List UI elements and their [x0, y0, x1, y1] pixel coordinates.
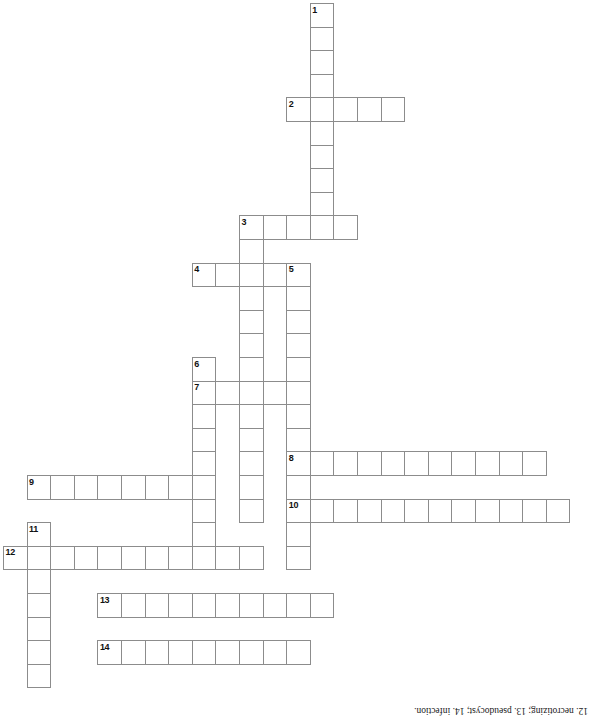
crossword-cell[interactable] — [286, 263, 311, 288]
crossword-cell[interactable] — [310, 145, 335, 170]
crossword-cell[interactable] — [475, 451, 500, 476]
crossword-cell[interactable] — [145, 475, 170, 500]
crossword-cell[interactable] — [192, 522, 217, 547]
crossword-cell[interactable] — [215, 546, 240, 571]
crossword-cell[interactable] — [522, 451, 547, 476]
crossword-cell[interactable] — [239, 451, 264, 476]
crossword-cell[interactable] — [192, 263, 217, 288]
crossword-cell[interactable] — [404, 499, 429, 524]
crossword-cell[interactable] — [121, 475, 146, 500]
crossword-cell[interactable] — [50, 475, 75, 500]
crossword-cell[interactable] — [263, 640, 288, 665]
crossword-cell[interactable] — [286, 451, 311, 476]
crossword-cell[interactable] — [286, 593, 311, 618]
crossword-cell[interactable] — [239, 546, 264, 571]
crossword-cell[interactable] — [310, 215, 335, 240]
crossword-cell[interactable] — [522, 499, 547, 524]
crossword-cell[interactable] — [27, 475, 52, 500]
crossword-cell[interactable] — [475, 499, 500, 524]
crossword-cell[interactable] — [97, 640, 122, 665]
crossword-cell[interactable] — [145, 593, 170, 618]
crossword-cell[interactable] — [239, 593, 264, 618]
crossword-cell[interactable] — [286, 640, 311, 665]
crossword-cell[interactable] — [239, 404, 264, 429]
crossword-cell[interactable] — [310, 121, 335, 146]
crossword-cell[interactable] — [428, 451, 453, 476]
crossword-cell[interactable] — [192, 546, 217, 571]
crossword-cell[interactable] — [27, 617, 52, 642]
crossword-cell[interactable] — [192, 381, 217, 406]
crossword-cell[interactable] — [404, 451, 429, 476]
crossword-cell[interactable] — [333, 215, 358, 240]
crossword-cell[interactable] — [381, 97, 406, 122]
crossword-cell[interactable] — [168, 593, 193, 618]
crossword-cell[interactable] — [546, 499, 571, 524]
crossword-cell[interactable] — [310, 451, 335, 476]
crossword-cell[interactable] — [286, 381, 311, 406]
crossword-cell[interactable] — [215, 263, 240, 288]
crossword-cell[interactable] — [121, 640, 146, 665]
crossword-cell[interactable] — [381, 451, 406, 476]
crossword-cell[interactable] — [286, 499, 311, 524]
crossword-cell[interactable] — [239, 428, 264, 453]
crossword-cell[interactable] — [239, 357, 264, 382]
crossword-cell[interactable] — [192, 593, 217, 618]
crossword-cell[interactable] — [310, 168, 335, 193]
crossword-cell[interactable] — [97, 546, 122, 571]
crossword-cell[interactable] — [97, 475, 122, 500]
crossword-cell[interactable] — [499, 499, 524, 524]
crossword-cell[interactable] — [192, 428, 217, 453]
crossword-cell[interactable] — [121, 593, 146, 618]
crossword-cell[interactable] — [74, 546, 99, 571]
crossword-cell[interactable] — [310, 74, 335, 99]
crossword-cell[interactable] — [286, 522, 311, 547]
crossword-cell[interactable] — [239, 215, 264, 240]
crossword-cell[interactable] — [286, 428, 311, 453]
crossword-cell[interactable] — [121, 546, 146, 571]
crossword-cell[interactable] — [239, 640, 264, 665]
crossword-cell[interactable] — [381, 499, 406, 524]
crossword-cell[interactable] — [239, 286, 264, 311]
crossword-cell[interactable] — [263, 593, 288, 618]
crossword-cell[interactable] — [192, 499, 217, 524]
crossword-cell[interactable] — [263, 381, 288, 406]
crossword-cell[interactable] — [286, 97, 311, 122]
crossword-cell[interactable] — [239, 263, 264, 288]
crossword-cell[interactable] — [27, 664, 52, 689]
crossword-cell[interactable] — [239, 310, 264, 335]
crossword-cell[interactable] — [27, 522, 52, 547]
crossword-cell[interactable] — [428, 499, 453, 524]
crossword-cell[interactable] — [145, 546, 170, 571]
crossword-cell[interactable] — [192, 451, 217, 476]
crossword-cell[interactable] — [451, 499, 476, 524]
crossword-cell[interactable] — [333, 451, 358, 476]
crossword-cell[interactable] — [263, 215, 288, 240]
crossword-cell[interactable] — [239, 239, 264, 264]
crossword-cell[interactable] — [168, 475, 193, 500]
crossword-cell[interactable] — [357, 499, 382, 524]
crossword-cell[interactable] — [499, 451, 524, 476]
crossword-cell[interactable] — [451, 451, 476, 476]
crossword-cell[interactable] — [310, 97, 335, 122]
crossword-cell[interactable] — [286, 404, 311, 429]
crossword-cell[interactable] — [27, 546, 52, 571]
crossword-cell[interactable] — [239, 381, 264, 406]
crossword-cell[interactable] — [357, 451, 382, 476]
crossword-cell[interactable] — [286, 310, 311, 335]
crossword-cell[interactable] — [215, 381, 240, 406]
crossword-cell[interactable] — [357, 97, 382, 122]
crossword-cell[interactable] — [310, 192, 335, 217]
crossword-cell[interactable] — [263, 263, 288, 288]
crossword-cell[interactable] — [286, 333, 311, 358]
crossword-cell[interactable] — [310, 27, 335, 52]
crossword-cell[interactable] — [310, 593, 335, 618]
crossword-cell[interactable] — [286, 475, 311, 500]
crossword-cell[interactable] — [239, 333, 264, 358]
crossword-cell[interactable] — [286, 546, 311, 571]
crossword-cell[interactable] — [192, 404, 217, 429]
crossword-cell[interactable] — [50, 546, 75, 571]
crossword-cell[interactable] — [310, 499, 335, 524]
crossword-cell[interactable] — [145, 640, 170, 665]
crossword-cell[interactable] — [310, 3, 335, 28]
crossword-cell[interactable] — [27, 593, 52, 618]
